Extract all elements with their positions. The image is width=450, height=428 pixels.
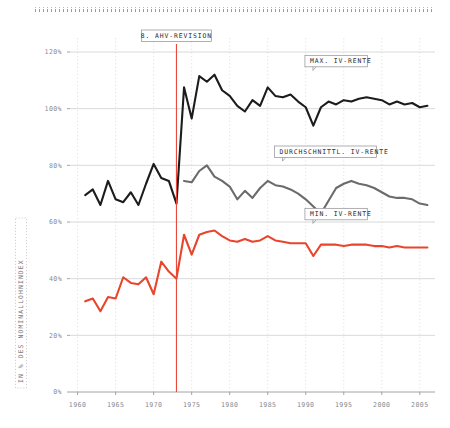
series-line xyxy=(85,75,427,205)
y-tick-label: 80% xyxy=(49,162,62,170)
y-tick-label: 0% xyxy=(53,388,62,396)
x-tick-label: 1985 xyxy=(259,401,276,409)
annotation-pointer xyxy=(283,158,286,162)
annotation-label: MAX. IV-RENTE xyxy=(310,57,372,65)
annotation-label: 8. AHV-REVISION xyxy=(141,32,212,40)
chart-page: 0%20%40%60%80%100%120% 19601965197019751… xyxy=(0,0,450,428)
annotation-label: MIN. IV-RENTE xyxy=(310,210,372,218)
y-tick-label: 120% xyxy=(45,48,62,56)
x-tick-label: 1975 xyxy=(183,401,200,409)
annotation-group: 8. AHV-REVISIONMAX. IV-RENTEDURCHSCHNITT… xyxy=(141,30,389,392)
iv-rente-line-chart: 0%20%40%60%80%100%120% 19601965197019751… xyxy=(0,0,450,428)
x-tick-label: 1960 xyxy=(69,401,86,409)
x-tick-label: 1965 xyxy=(107,401,124,409)
x-tick-label: 1980 xyxy=(221,401,238,409)
x-tick-label: 2000 xyxy=(373,401,390,409)
y-tick-labels: 0%20%40%60%80%100%120% xyxy=(45,48,62,396)
grid-horizontal xyxy=(70,52,435,335)
data-series-group xyxy=(85,75,427,312)
y-tick-label: 100% xyxy=(45,105,62,113)
series-line xyxy=(85,231,427,312)
y-tick-label: 20% xyxy=(49,332,62,340)
annotation-label: DURCHSCHNITTL. IV-RENTE xyxy=(280,148,389,156)
y-tick-label: 40% xyxy=(49,275,62,283)
x-tick-labels: 1960196519701975198019851990199520002005 xyxy=(69,401,429,409)
y-axis-title-label: IN % DES NOMINALLOHNINDEX xyxy=(17,259,25,383)
annotation-pointer xyxy=(313,67,316,71)
y-axis-title: IN % DES NOMINALLOHNINDEX xyxy=(16,218,27,388)
x-tick-label: 1970 xyxy=(145,401,162,409)
y-tick-label: 60% xyxy=(49,218,62,226)
x-tick-label: 1990 xyxy=(297,401,314,409)
x-tick-label: 2005 xyxy=(411,401,428,409)
x-tick-label: 1995 xyxy=(335,401,352,409)
